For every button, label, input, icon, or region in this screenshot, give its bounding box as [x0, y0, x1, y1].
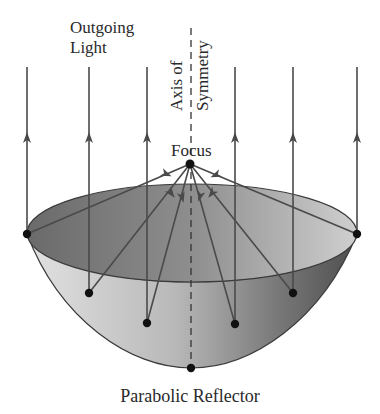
outgoing-light-label: Outgoing Light — [70, 18, 134, 58]
focus-label: Focus — [171, 142, 212, 160]
axis-label-line2: Symmetry — [194, 40, 212, 111]
outgoing-label-line2: Light — [70, 38, 134, 58]
vertex-point — [187, 364, 195, 372]
parabolic-reflector-diagram: Outgoing Light Axis of Symmetry Focus Pa… — [0, 0, 380, 414]
outgoing-label-line1: Outgoing — [70, 18, 134, 38]
diagram-canvas — [0, 0, 380, 414]
bowl-rim — [27, 184, 357, 282]
axis-label-line1: Axis of — [168, 60, 186, 111]
focus-point — [186, 160, 195, 169]
diagram-title: Parabolic Reflector — [0, 387, 380, 405]
